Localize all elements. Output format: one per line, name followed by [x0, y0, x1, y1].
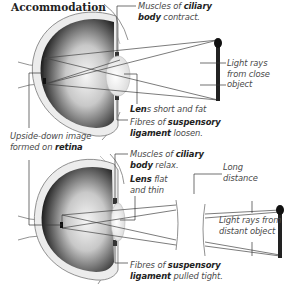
retina-image-top: [43, 78, 46, 84]
close-object-candle: [214, 38, 222, 101]
top-eye: [18, 4, 130, 140]
distance-break-marks: [176, 200, 205, 256]
label-ciliary-contract: Muscles of ciliary body contract.: [138, 1, 212, 22]
label-ciliary-relax: Muscles of ciliary body relax.: [130, 149, 204, 170]
label-long-distance: Long distance: [223, 162, 258, 183]
label-fibres-pulled-tight: Fibres of suspensory ligament pulled tig…: [130, 260, 223, 281]
label-upside-down-image: Upside-down image formed on retina: [10, 131, 91, 152]
label-light-rays-distant: Light rays from distant object: [219, 215, 281, 236]
label-fibres-loosen: Fibres of suspensory ligament loosen.: [130, 117, 221, 138]
label-lens-flat-thin: Lens flat and thin: [130, 174, 167, 195]
label-light-rays-close: Light rays from close object: [227, 58, 270, 90]
diagram-title: Accommodation: [11, 1, 106, 13]
label-lens-short-fat: Lens short and fat: [130, 104, 206, 115]
bottom-eye: [18, 154, 125, 284]
